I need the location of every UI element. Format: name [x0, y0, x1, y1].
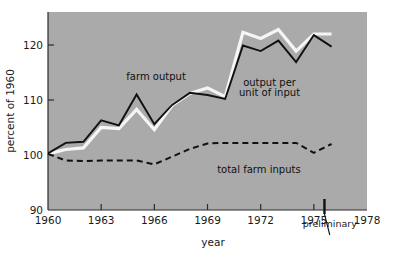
y-tick-label: 110	[23, 94, 43, 106]
x-tick-label: 1978	[354, 214, 381, 226]
series-annotation: total farm inputs	[217, 164, 300, 175]
x-tick-label: 1960	[35, 214, 62, 226]
x-tick-label: 1972	[247, 214, 274, 226]
farm-output-line-chart: 90100110120 1960196319661969197219751978…	[0, 0, 395, 264]
x-tick-label: 1963	[88, 214, 115, 226]
x-axis-title: year	[201, 236, 225, 248]
series-annotation: unit of input	[239, 87, 300, 98]
chart-figure: 90100110120 1960196319661969197219751978…	[0, 0, 395, 264]
y-tick-label: 120	[23, 39, 43, 51]
x-tick-label: 1969	[194, 214, 221, 226]
y-tick-label: 100	[23, 149, 43, 161]
y-axis-title: percent of 1960	[4, 69, 16, 153]
plot-area-background	[48, 12, 367, 210]
series-annotation: farm output	[126, 71, 186, 82]
x-tick-label: 1966	[141, 214, 168, 226]
preliminary-caption: preliminary	[303, 218, 357, 229]
